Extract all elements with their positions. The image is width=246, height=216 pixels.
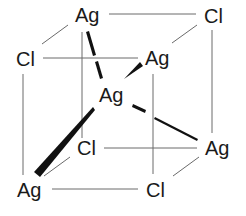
atom-cl-bottom-front-right: Cl [146, 179, 165, 201]
bond-dash-2 [95, 61, 103, 79]
atom-ag-bottom-back-right: Ag [205, 137, 229, 159]
atom-ag-top-front-right: Ag [145, 47, 169, 69]
atom-cl-top-front-left: Cl [16, 48, 35, 70]
atom-ag-center: Ag [99, 84, 123, 106]
bond-dash-3 [132, 104, 146, 113]
atom-cl-top-back-right: Cl [204, 5, 223, 27]
bond-wedge-top-right [124, 62, 143, 79]
edge-top-left [42, 25, 68, 44]
atom-ag-top-back: Ag [75, 4, 99, 26]
atom-ag-bottom-front-left: Ag [17, 179, 41, 201]
bond-dash-1 [86, 31, 96, 56]
atom-cl-bottom-back-left: Cl [77, 137, 96, 159]
edge-bottom-right [173, 157, 199, 176]
crystal-structure-diagram: Ag Cl Cl Ag Ag Cl Ag Ag Cl [0, 0, 246, 216]
edge-top-right [172, 25, 197, 43]
atom-labels: Ag Cl Cl Ag Ag Cl Ag Ag Cl [16, 4, 229, 201]
bond-line-right [154, 117, 198, 141]
